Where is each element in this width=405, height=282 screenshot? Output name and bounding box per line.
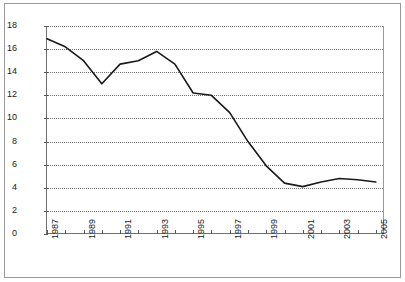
- y-axis-label-8: 8: [0, 137, 17, 146]
- data-series-line: [47, 26, 385, 234]
- y-axis-label-4: 4: [0, 183, 17, 192]
- y-axis-label-2: 2: [0, 206, 17, 215]
- y-axis-label-12: 12: [0, 90, 17, 99]
- series-1-path: [47, 39, 376, 187]
- y-axis-label-18: 18: [0, 21, 17, 30]
- plot-area: 181614121086420 198719891991199319951997…: [46, 26, 384, 234]
- y-axis-label-6: 6: [0, 160, 17, 169]
- y-axis-label-16: 16: [0, 44, 17, 53]
- y-axis-label-0: 0: [0, 229, 17, 238]
- y-axis-label-10: 10: [0, 113, 17, 122]
- y-tick-0: [44, 234, 48, 235]
- chart-outer-frame: 181614121086420 198719891991199319951997…: [4, 3, 401, 278]
- y-axis-label-14: 14: [0, 67, 17, 76]
- line-chart-figure: 181614121086420 198719891991199319951997…: [0, 0, 405, 282]
